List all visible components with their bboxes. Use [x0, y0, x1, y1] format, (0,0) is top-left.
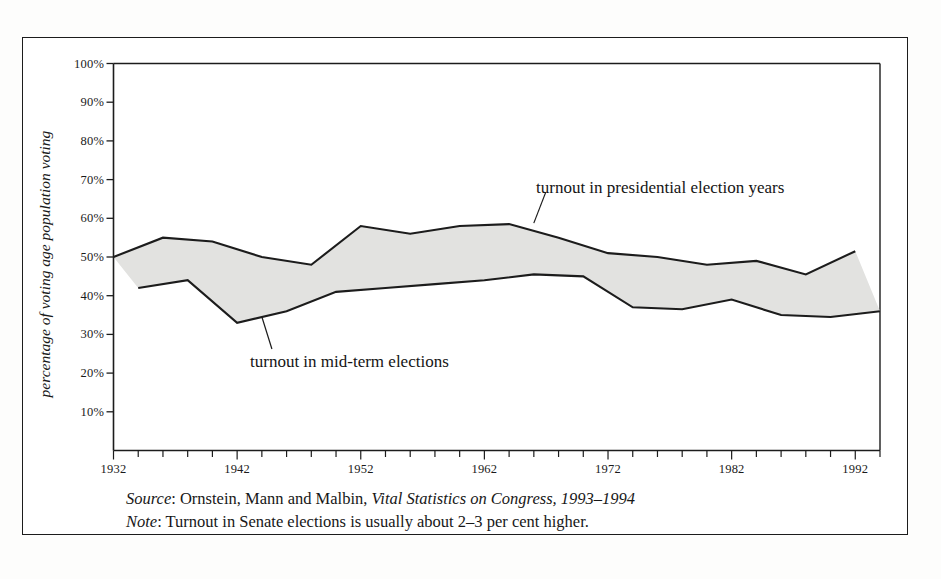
source-separator: : [171, 489, 180, 508]
source-line: Source: Ornstein, Mann and Malbin, Vital… [126, 487, 866, 510]
turnout-band-area [114, 224, 881, 323]
source-label: Source [126, 489, 171, 508]
x-axis-tick-label: 1962 [471, 462, 497, 477]
y-axis-tick-label: 40% [48, 288, 104, 303]
y-axis-tick-label: 80% [48, 133, 104, 148]
y-axis-tick-label: 70% [48, 172, 104, 187]
figure: 10%20%30%40%50%60%70%80%90%100% 19321942… [0, 0, 941, 579]
y-axis-tick-label: 20% [48, 366, 104, 381]
x-axis-tick-label: 1952 [348, 462, 374, 477]
y-axis-tick-label: 60% [48, 211, 104, 226]
annotation-presidential-turnout: turnout in presidential election years [536, 178, 784, 198]
source-title: Vital Statistics on Congress, 1993–1994 [372, 489, 636, 508]
x-axis-tick-label: 1992 [842, 462, 868, 477]
note-text: Turnout in Senate elections is usually a… [166, 512, 589, 531]
x-axis-tick-label: 1982 [719, 462, 745, 477]
plot-group [107, 64, 881, 460]
y-axis-tick-label: 100% [48, 56, 104, 71]
figure-footnotes: Source: Ornstein, Mann and Malbin, Vital… [126, 487, 866, 534]
midterm-annotation-leader [262, 317, 272, 349]
x-axis-tick-label: 1932 [101, 462, 127, 477]
y-axis-tick-label: 10% [48, 404, 104, 419]
y-axis-ticks [107, 64, 114, 412]
note-separator: : [157, 512, 165, 531]
note-label: Note [126, 512, 157, 531]
y-axis-tick-label: 90% [48, 95, 104, 110]
annotation-midterm-turnout: turnout in mid-term elections [250, 352, 449, 372]
y-axis-tick-label: 30% [48, 327, 104, 342]
note-line: Note: Turnout in Senate elections is usu… [126, 510, 866, 533]
y-axis-tick-label: 50% [48, 250, 104, 265]
source-text: Ornstein, Mann and Malbin, [180, 489, 372, 508]
x-axis-tick-label: 1972 [595, 462, 621, 477]
x-axis-ticks [114, 451, 881, 460]
y-axis-title: percentage of voting age population voti… [36, 99, 54, 429]
x-axis-tick-label: 1942 [224, 462, 250, 477]
